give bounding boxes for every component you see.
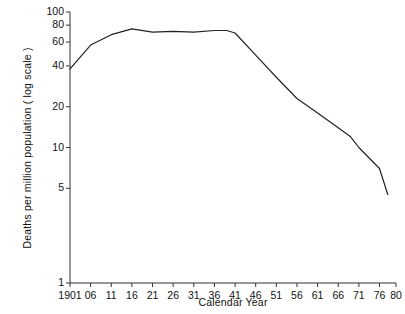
axis-lines: [70, 12, 396, 283]
plot-area: [0, 0, 405, 314]
y-axis-tick-label: 10: [30, 142, 64, 153]
y-axis-tick-label: 80: [30, 19, 64, 30]
x-axis-tick-label: 80: [381, 290, 405, 301]
data-series-line: [70, 29, 388, 195]
y-axis-tick-label: 5: [30, 182, 64, 193]
y-axis-tick-label: 100: [30, 6, 64, 17]
y-axis-tick-label: 1: [30, 277, 64, 288]
y-axis-tick-label: 20: [30, 101, 64, 112]
y-axis-tick-label: 60: [30, 36, 64, 47]
x-axis-ticks: [70, 283, 396, 287]
y-axis-tick-label: 40: [30, 60, 64, 71]
chart-figure: Deaths per million population ( log scal…: [0, 0, 405, 314]
y-axis-ticks: [66, 12, 70, 283]
